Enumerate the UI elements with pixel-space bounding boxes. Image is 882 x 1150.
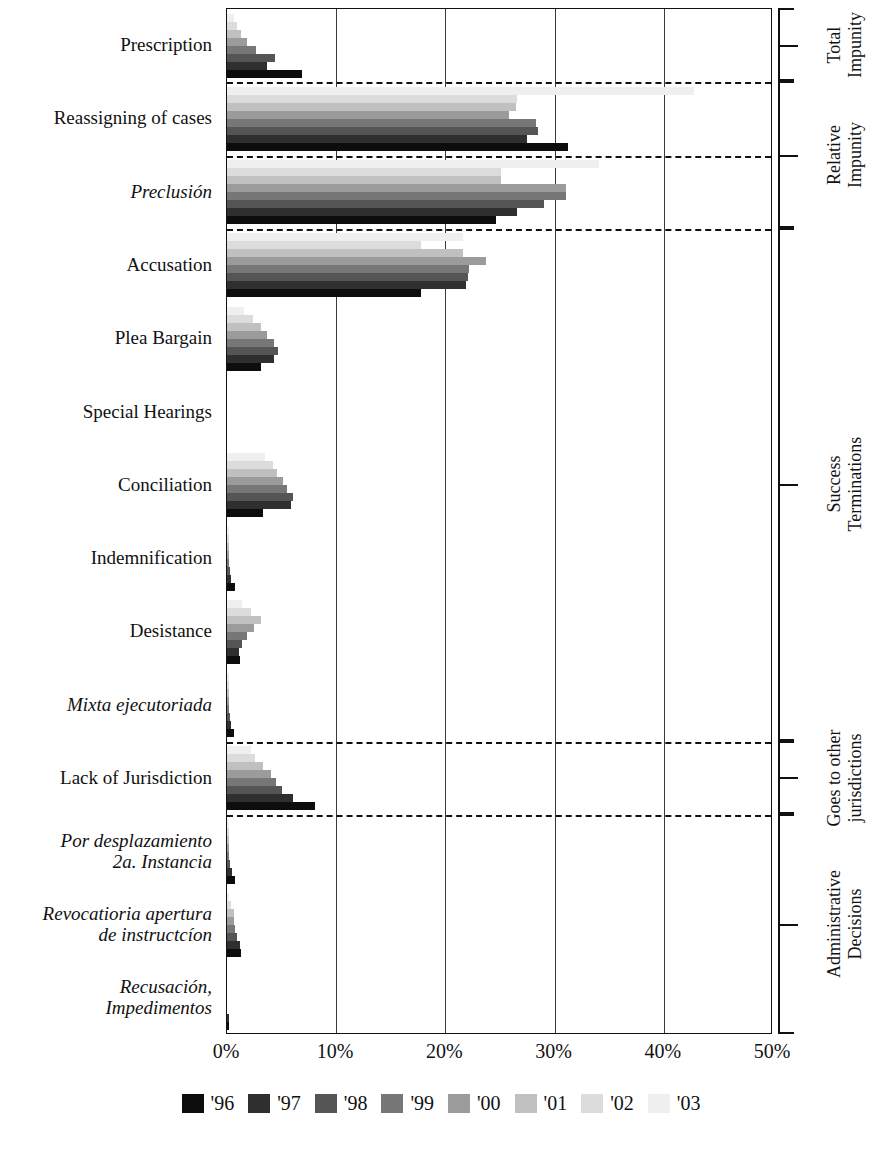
bar [227, 355, 274, 363]
x-tick-label: 50% [754, 1040, 791, 1063]
bar [227, 681, 229, 689]
bar [227, 1022, 229, 1030]
bar [227, 527, 229, 535]
category-label: Special Hearings [0, 401, 212, 422]
bar [227, 941, 240, 949]
bracket-tick [780, 155, 798, 157]
legend-swatch [315, 1094, 337, 1113]
bar [227, 200, 544, 208]
bar [227, 836, 229, 844]
bar [227, 273, 468, 281]
group-bracket-label: AdministrativeDecisions [824, 834, 866, 1014]
bar [227, 1014, 229, 1022]
bracket-tick [780, 924, 798, 926]
bar [227, 575, 231, 583]
legend-label: '03 [677, 1092, 701, 1115]
legend-item[interactable]: '01 [515, 1092, 568, 1115]
bar [227, 192, 566, 200]
bar [227, 135, 527, 143]
bracket-cap-top [778, 8, 794, 10]
bar-group [227, 962, 771, 1035]
category-group-brackets: TotalImpunityRelativeImpunitySuccessTerm… [778, 8, 882, 1034]
legend-swatch [648, 1094, 670, 1113]
legend-item[interactable]: '02 [581, 1092, 634, 1115]
bar [227, 762, 263, 770]
plot-area [226, 8, 772, 1034]
bar [227, 87, 694, 95]
bracket-tick [780, 45, 798, 47]
bar-group [227, 229, 771, 302]
category-label: Desistance [0, 620, 212, 641]
bar [227, 949, 241, 957]
bar [227, 339, 274, 347]
bar [227, 307, 244, 315]
category-label: Reassigning of cases [0, 107, 212, 128]
bar [227, 616, 261, 624]
bar [227, 608, 251, 616]
bar [227, 705, 229, 713]
group-bracket-label: SuccessTerminations [824, 394, 866, 574]
bar [227, 820, 229, 828]
bar [227, 543, 229, 551]
bar-group [227, 9, 771, 82]
bar [227, 257, 486, 265]
bar [227, 469, 277, 477]
legend-item[interactable]: '99 [381, 1092, 434, 1115]
bar [227, 176, 501, 184]
legend-label: '97 [277, 1092, 301, 1115]
x-axis-tick-labels: 0%10%20%30%40%50% [0, 1040, 882, 1070]
bracket-cap-top [778, 81, 794, 83]
bar [227, 143, 568, 151]
bar [227, 770, 271, 778]
category-label: Indemnification [0, 547, 212, 568]
bar [227, 794, 293, 802]
bar [227, 535, 229, 543]
bar [227, 95, 517, 103]
bar [227, 241, 421, 249]
bar [227, 868, 232, 876]
legend-label: '00 [477, 1092, 501, 1115]
bar [227, 281, 466, 289]
bar [227, 363, 261, 371]
bar [227, 331, 267, 339]
bar [227, 265, 469, 273]
bar [227, 746, 251, 754]
bar [227, 802, 315, 810]
group-bracket [778, 741, 800, 814]
bar [227, 721, 231, 729]
bracket-cap-top [778, 814, 794, 816]
bar [227, 485, 287, 493]
bar [227, 844, 229, 852]
bar [227, 893, 229, 901]
bar [227, 583, 235, 591]
legend-label: '01 [544, 1092, 568, 1115]
bracket-tick [780, 484, 798, 486]
bar-group [227, 522, 771, 595]
category-label: Accusation [0, 254, 212, 275]
bar-group [227, 449, 771, 522]
legend-item[interactable]: '97 [248, 1092, 301, 1115]
bar [227, 551, 229, 559]
bar [227, 860, 230, 868]
bar [227, 249, 463, 257]
bar [227, 786, 282, 794]
legend-item[interactable]: '00 [448, 1092, 501, 1115]
legend-item[interactable]: '96 [182, 1092, 235, 1115]
legend-swatch [182, 1094, 204, 1113]
bar [227, 559, 229, 567]
legend-item[interactable]: '03 [648, 1092, 701, 1115]
bar [227, 127, 538, 135]
bar-group [227, 669, 771, 742]
bar [227, 624, 254, 632]
bar [227, 509, 263, 517]
x-tick-label: 30% [535, 1040, 572, 1063]
bar [227, 901, 231, 909]
bar [227, 216, 496, 224]
group-bracket [778, 228, 800, 741]
legend-item[interactable]: '98 [315, 1092, 368, 1115]
bar-group [227, 888, 771, 961]
category-label: Por desplazamiento2a. Instancia [0, 830, 212, 872]
category-label: Preclusión [0, 181, 212, 202]
bar [227, 70, 302, 78]
bracket-tick [780, 777, 798, 779]
